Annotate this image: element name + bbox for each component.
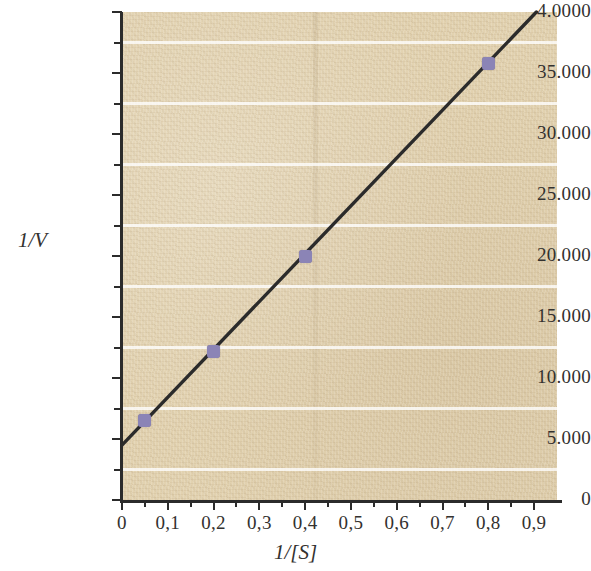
y-tick-label: 5.000 (487, 427, 591, 449)
y-tick (112, 316, 122, 318)
x-tick-minor (190, 500, 192, 507)
x-tick-minor (327, 500, 329, 507)
y-tick (112, 438, 122, 440)
x-tick-label: 0,9 (504, 512, 564, 534)
data-point-marker (299, 250, 312, 263)
y-tick-label: 4.0000 (487, 0, 591, 22)
lineweaver-burk-chart: 05.00010.00015.00020.00025.00030.00035.0… (0, 0, 591, 571)
gridline (122, 102, 557, 105)
y-tick-label: 0 (487, 488, 591, 510)
x-tick (350, 500, 352, 510)
y-tick (112, 133, 122, 135)
x-tick-minor (281, 500, 283, 507)
gridline (122, 41, 557, 44)
gridline (122, 285, 557, 288)
gridline (122, 346, 557, 349)
x-tick-minor (373, 500, 375, 507)
gridline (122, 407, 557, 410)
y-tick-minor (114, 164, 122, 166)
gridline (122, 163, 557, 166)
y-tick-label: 30.000 (487, 122, 591, 144)
gridline (122, 224, 557, 227)
y-tick-label: 15.000 (487, 305, 591, 327)
y-tick-label: 10.000 (487, 366, 591, 388)
y-tick (112, 194, 122, 196)
y-tick (112, 377, 122, 379)
y-axis-line (120, 12, 123, 503)
y-tick-minor (114, 286, 122, 288)
x-tick-minor (464, 500, 466, 507)
data-point-marker (138, 414, 151, 427)
y-tick-minor (114, 347, 122, 349)
data-point-marker (207, 345, 220, 358)
y-tick-label: 25.000 (487, 183, 591, 205)
x-axis-label: 1/[S] (0, 540, 591, 565)
y-tick-minor (114, 42, 122, 44)
paper-smudge (313, 12, 318, 500)
y-tick-minor (114, 225, 122, 227)
y-tick-label: 35.000 (487, 61, 591, 83)
y-tick (112, 72, 122, 74)
x-tick (396, 500, 398, 510)
x-tick-minor (235, 500, 237, 507)
x-tick-minor (419, 500, 421, 507)
x-tick (121, 500, 123, 510)
y-tick (112, 11, 122, 13)
x-tick (258, 500, 260, 510)
x-tick (442, 500, 444, 510)
x-tick-minor (144, 500, 146, 507)
y-axis-label: 1/V (18, 228, 47, 253)
x-tick (304, 500, 306, 510)
y-tick-label: 20.000 (487, 244, 591, 266)
y-tick (112, 255, 122, 257)
y-tick-minor (114, 103, 122, 105)
data-point-marker (482, 57, 495, 70)
gridline (122, 468, 557, 471)
y-tick-minor (114, 469, 122, 471)
y-tick-minor (114, 408, 122, 410)
x-tick (213, 500, 215, 510)
x-tick (167, 500, 169, 510)
